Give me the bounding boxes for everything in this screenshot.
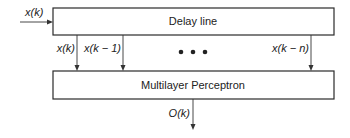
tap-arrow-1 (121, 35, 126, 71)
tdnn-diagram: x(k) Delay line x(k) x(k − 1) x(k − n) M… (0, 0, 350, 138)
tap-label-0: x(k) (56, 42, 76, 54)
input-arrow (20, 20, 53, 25)
delay-line-label: Delay line (169, 15, 217, 27)
tap-arrow-0 (75, 35, 80, 71)
tap-label-1: x(k − 1) (83, 42, 121, 54)
mlp-label: Multilayer Perceptron (141, 79, 245, 91)
output-arrow (191, 99, 196, 130)
tap-label-n: x(k − n) (271, 42, 309, 54)
tap-arrow-n (309, 35, 314, 71)
output-label: O(k) (169, 107, 191, 119)
input-label: x(k) (24, 6, 44, 18)
ellipsis-icon (179, 50, 208, 55)
